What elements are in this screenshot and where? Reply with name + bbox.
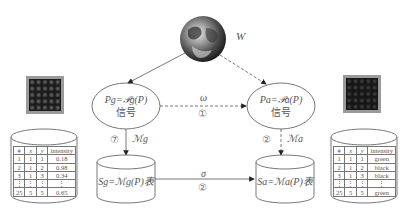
sigma-label: σ (201, 168, 206, 179)
earth-globe-icon (180, 16, 226, 62)
right-signal-formula: Pa=𝒫a(P) (247, 95, 315, 105)
col-header-x: x (345, 147, 356, 155)
table-row: 2555green (334, 188, 396, 196)
col-header-y: y (356, 147, 367, 155)
grayscale-grid-image (26, 76, 64, 114)
table-row: 313black (334, 171, 396, 179)
left-signal-caption: 信号 (92, 108, 160, 118)
table-row: ⋮⋮⋮⋮ (14, 180, 76, 188)
table-row: 2120.98 (14, 163, 76, 171)
right-store-label: Sa=ℳa(P)表 (256, 173, 314, 188)
table-header-row: # x y intensity (334, 147, 396, 155)
step-left-map-badge: ⑦ (110, 134, 119, 145)
step-right-map-badge: ② (262, 134, 271, 145)
left-data-table: # x y intensity 1110.18 2120.98 3130.34 … (13, 146, 76, 197)
edge-world-to-left-signal (128, 53, 185, 83)
right-signal-caption: 信号 (247, 108, 315, 118)
table-row: 212black (334, 163, 396, 171)
step-2-badge: ② (198, 182, 207, 193)
col-header-x: x (25, 147, 36, 155)
col-header-index: # (14, 147, 25, 155)
col-header-intensity: intensity (368, 147, 396, 155)
map-a-label: ℳa (287, 133, 303, 144)
left-store-label: Sg=ℳg(P)表 (97, 173, 155, 188)
col-header-y: y (36, 147, 47, 155)
right-data-table: # x y intensity 111green 212black 313bla… (333, 146, 396, 197)
omega-label: ω (200, 92, 207, 103)
col-header-intensity: intensity (48, 147, 76, 155)
edge-world-to-right-signal (220, 55, 266, 84)
map-g-label: ℳg (132, 133, 148, 144)
table-row: ⋮⋮⋮⋮ (334, 180, 396, 188)
left-signal-formula: Pg=𝒫g(P) (92, 95, 160, 105)
left-signal-node: Pg=𝒫g(P) 信号 (92, 95, 160, 118)
color-grid-image (343, 75, 381, 113)
table-row: 1110.18 (14, 155, 76, 163)
world-label: W (236, 30, 245, 42)
step-1-badge: ① (198, 108, 207, 119)
table-row: 111green (334, 155, 396, 163)
table-header-row: # x y intensity (14, 147, 76, 155)
table-row: 3130.34 (14, 171, 76, 179)
table-row: 25550.65 (14, 188, 76, 196)
right-signal-node: Pa=𝒫a(P) 信号 (247, 95, 315, 118)
col-header-index: # (334, 147, 345, 155)
